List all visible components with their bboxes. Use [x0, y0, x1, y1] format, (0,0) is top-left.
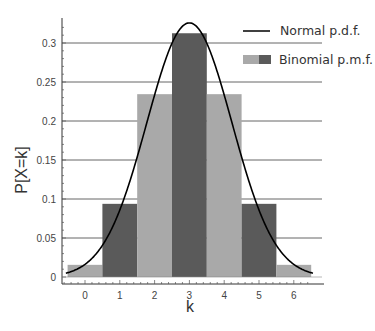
legend-binomial-label: Binomial p.m.f.	[279, 52, 373, 67]
y-tick-label: 0.25	[37, 77, 57, 88]
bar-k-2	[137, 94, 172, 277]
x-tick-label: 6	[291, 290, 297, 301]
y-tick-label: 0.05	[37, 233, 57, 244]
y-tick-label: 0.3	[42, 38, 56, 49]
binomial-bars	[68, 33, 312, 277]
bar-k-1	[102, 204, 137, 277]
y-tick-label: 0.15	[37, 155, 57, 166]
x-tick-label: 0	[82, 290, 88, 301]
x-axis-label: k	[186, 298, 195, 315]
legend-binomial-light-swatch-icon	[243, 55, 259, 64]
x-tick-label: 2	[152, 290, 158, 301]
y-tick-label: 0	[50, 272, 56, 283]
y-tick-label: 0.2	[42, 116, 56, 127]
bar-k-3	[172, 33, 207, 277]
y-tick-label: 0.1	[42, 194, 56, 205]
bar-k-5	[242, 204, 277, 277]
chart-canvas: 00.050.10.150.20.250.3 0123456 k P[X=k] …	[0, 0, 375, 331]
bar-k-4	[207, 94, 242, 277]
y-axis-ticks: 00.050.10.150.20.250.3	[37, 38, 57, 283]
x-tick-label: 1	[117, 290, 123, 301]
legend-normal-label: Normal p.d.f.	[280, 23, 360, 38]
y-axis-label: P[X=k]	[13, 146, 30, 194]
x-tick-label: 5	[256, 290, 262, 301]
legend: Normal p.d.f. Binomial p.m.f.	[243, 23, 373, 67]
legend-binomial-dark-swatch-icon	[259, 55, 271, 64]
x-tick-label: 4	[221, 290, 227, 301]
